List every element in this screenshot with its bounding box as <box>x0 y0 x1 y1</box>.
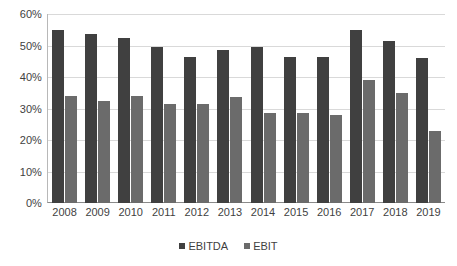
bar-group <box>147 14 180 203</box>
y-axis: 0%10%20%30%40%50%60% <box>0 0 42 217</box>
x-axis-tick-label: 2008 <box>48 206 81 218</box>
bar-ebit-2009[interactable] <box>98 101 110 203</box>
bar-ebitda-2009[interactable] <box>85 34 97 203</box>
bar-ebitda-2011[interactable] <box>151 47 163 203</box>
x-axis-tick-label: 2019 <box>412 206 445 218</box>
bar-group <box>48 14 81 203</box>
bar-group <box>81 14 114 203</box>
legend-label: EBITDA <box>188 240 228 252</box>
x-axis-tick-label: 2012 <box>180 206 213 218</box>
legend-item-ebit[interactable]: EBIT <box>244 240 277 252</box>
bar-ebit-2015[interactable] <box>297 113 309 203</box>
bar-ebitda-2016[interactable] <box>317 57 329 203</box>
y-axis-tick-label: 20% <box>0 134 42 146</box>
bar-group <box>379 14 412 203</box>
x-axis-tick-label: 2009 <box>81 206 114 218</box>
bars-layer <box>48 14 445 203</box>
bar-ebit-2019[interactable] <box>429 131 441 203</box>
bar-ebitda-2012[interactable] <box>184 57 196 203</box>
bar-ebit-2017[interactable] <box>363 80 375 203</box>
y-axis-tick-label: 50% <box>0 40 42 52</box>
bar-ebitda-2010[interactable] <box>118 38 130 203</box>
legend-swatch-icon <box>179 243 185 249</box>
bar-ebitda-2017[interactable] <box>350 30 362 203</box>
x-axis-tick-label: 2015 <box>280 206 313 218</box>
bar-group <box>412 14 445 203</box>
bar-ebit-2013[interactable] <box>230 97 242 203</box>
y-axis-tick-label: 0% <box>0 197 42 209</box>
y-axis-tick-label: 40% <box>0 71 42 83</box>
bar-group <box>114 14 147 203</box>
legend-label: EBIT <box>253 240 277 252</box>
bar-ebit-2008[interactable] <box>65 96 77 203</box>
bar-ebit-2016[interactable] <box>330 115 342 203</box>
bar-ebitda-2013[interactable] <box>217 50 229 203</box>
bar-ebit-2014[interactable] <box>264 113 276 203</box>
bar-group <box>280 14 313 203</box>
x-axis-tick-label: 2010 <box>114 206 147 218</box>
legend-item-ebitda[interactable]: EBITDA <box>179 240 228 252</box>
bar-ebit-2018[interactable] <box>396 93 408 203</box>
bar-ebitda-2019[interactable] <box>416 58 428 203</box>
x-axis-tick-label: 2011 <box>147 206 180 218</box>
legend-swatch-icon <box>244 243 250 249</box>
bar-ebitda-2015[interactable] <box>284 57 296 203</box>
y-axis-tick-label: 30% <box>0 103 42 115</box>
x-axis-tick-label: 2016 <box>313 206 346 218</box>
bar-ebitda-2018[interactable] <box>383 41 395 203</box>
bar-ebit-2010[interactable] <box>131 96 143 203</box>
bar-ebitda-2008[interactable] <box>52 30 64 203</box>
x-axis-tick-label: 2014 <box>246 206 279 218</box>
bar-group <box>346 14 379 203</box>
x-axis-tick-label: 2017 <box>346 206 379 218</box>
bar-group <box>246 14 279 203</box>
x-axis: 2008200920102011201220132014201520162017… <box>48 206 445 218</box>
bar-group <box>213 14 246 203</box>
x-axis-tick-label: 2013 <box>213 206 246 218</box>
bar-group <box>180 14 213 203</box>
bar-ebit-2011[interactable] <box>164 104 176 203</box>
y-axis-tick-label: 60% <box>0 8 42 20</box>
chart-legend: EBITDAEBIT <box>0 240 457 252</box>
y-axis-tick-label: 10% <box>0 166 42 178</box>
bar-chart: 0%10%20%30%40%50%60% 2008200920102011201… <box>0 0 457 266</box>
bar-group <box>313 14 346 203</box>
bar-ebit-2012[interactable] <box>197 104 209 203</box>
bar-ebitda-2014[interactable] <box>251 47 263 203</box>
x-axis-tick-label: 2018 <box>379 206 412 218</box>
